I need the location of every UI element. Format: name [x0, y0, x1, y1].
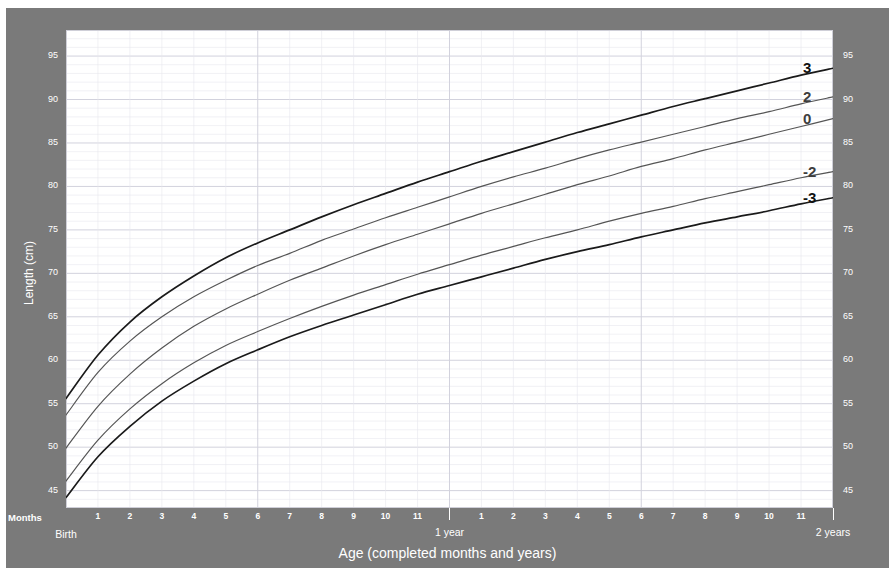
x-tick-month-15: 3: [533, 512, 557, 521]
x-tick-month-6: 6: [246, 512, 270, 521]
x-tick-month-19: 7: [661, 512, 685, 521]
x-tick-month-17: 5: [597, 512, 621, 521]
y-tick-left-80: 80: [30, 181, 58, 190]
x-epoch-label-12: 1 year: [405, 526, 495, 538]
y-tick-right-85: 85: [843, 138, 871, 147]
y-tick-right-60: 60: [843, 355, 871, 364]
x-tick-month-10: 10: [374, 512, 398, 521]
x-tick-month-3: 3: [150, 512, 174, 521]
y-tick-right-90: 90: [843, 95, 871, 104]
x-tick-month-2: 2: [118, 512, 142, 521]
y-tick-left-45: 45: [30, 486, 58, 495]
grid-layer: [66, 30, 833, 508]
x-tick-month-18: 6: [629, 512, 653, 521]
curve-label-zscore-minus3: -3: [803, 189, 816, 206]
y-tick-left-55: 55: [30, 399, 58, 408]
curve-label-zscore-minus2: -2: [803, 163, 816, 180]
y-tick-left-50: 50: [30, 442, 58, 451]
y-tick-right-55: 55: [843, 399, 871, 408]
y-tick-right-75: 75: [843, 225, 871, 234]
y-tick-left-65: 65: [30, 312, 58, 321]
y-tick-right-70: 70: [843, 268, 871, 277]
x-tick-month-23: 11: [789, 512, 813, 521]
y-tick-right-80: 80: [843, 181, 871, 190]
x-tick-month-20: 8: [693, 512, 717, 521]
x-tick-month-22: 10: [757, 512, 781, 521]
curve-label-zscore-2: 2: [803, 88, 811, 105]
x-tick-month-4: 4: [182, 512, 206, 521]
growth-chart-page: Length (cm) Age (completed months and ye…: [0, 0, 895, 578]
x-epoch-label-24: 2 years: [788, 526, 878, 538]
x-tick-month-11: 11: [406, 512, 430, 521]
x-tick-month-7: 7: [278, 512, 302, 521]
x-tick-month-1: 1: [86, 512, 110, 521]
y-tick-left-75: 75: [30, 225, 58, 234]
x-tick-month-21: 9: [725, 512, 749, 521]
curve-label-zscore-0: 0: [803, 110, 811, 127]
x-tick-month-5: 5: [214, 512, 238, 521]
months-corner-label: Months: [8, 512, 42, 523]
x-epoch-tickmark-24: [833, 508, 834, 520]
x-tick-month-13: 1: [469, 512, 493, 521]
plot-area: [66, 30, 833, 508]
y-tick-right-45: 45: [843, 486, 871, 495]
y-tick-right-50: 50: [843, 442, 871, 451]
y-tick-right-65: 65: [843, 312, 871, 321]
x-tick-month-14: 2: [501, 512, 525, 521]
y-tick-left-90: 90: [30, 95, 58, 104]
x-tick-month-16: 4: [565, 512, 589, 521]
x-epoch-label-0: Birth: [21, 528, 111, 540]
y-tick-left-95: 95: [30, 51, 58, 60]
curve-label-zscore-3: 3: [803, 59, 811, 76]
x-axis-title: Age (completed months and years): [0, 545, 895, 561]
x-tick-month-8: 8: [310, 512, 334, 521]
y-tick-left-85: 85: [30, 138, 58, 147]
y-tick-right-95: 95: [843, 51, 871, 60]
y-tick-left-60: 60: [30, 355, 58, 364]
y-tick-left-70: 70: [30, 268, 58, 277]
x-tick-month-9: 9: [342, 512, 366, 521]
x-epoch-tickmark-12: [449, 508, 450, 520]
